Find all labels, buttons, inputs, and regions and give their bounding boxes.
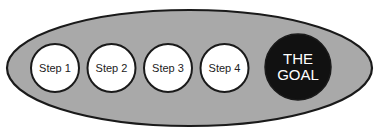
goal-label-line1: THE bbox=[283, 50, 313, 67]
step-node: Step 2 bbox=[88, 44, 136, 92]
goal-label-line2: GOAL bbox=[277, 66, 319, 83]
step-node: Step 1 bbox=[31, 44, 79, 92]
step-label: Step 1 bbox=[39, 62, 71, 74]
step-node: Step 4 bbox=[201, 44, 249, 92]
step-label: Step 4 bbox=[209, 62, 241, 74]
goal-diagram: Step 1Step 2Step 3Step 4 THE GOAL bbox=[0, 0, 382, 132]
goal-node: THE GOAL bbox=[265, 34, 331, 100]
step-label: Step 2 bbox=[96, 62, 128, 74]
step-node: Step 3 bbox=[144, 44, 192, 92]
step-label: Step 3 bbox=[152, 62, 184, 74]
